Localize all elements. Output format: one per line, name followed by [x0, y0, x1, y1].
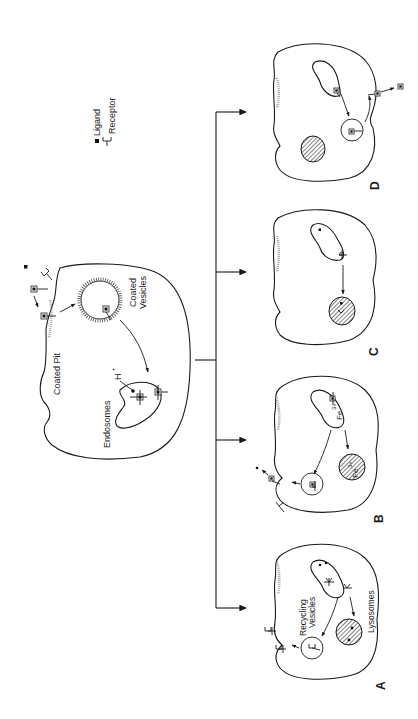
- panel-a-lysosomes-label: Lysosomes: [366, 590, 376, 633]
- receptor-icon: [103, 137, 111, 146]
- coated-pit-coat: [49, 300, 52, 338]
- main-cell-membrane: [40, 264, 190, 459]
- svg-text:Vesicles: Vesicles: [138, 275, 148, 309]
- receptor-mediated-endocytosis-diagram: Ligand Receptor: [0, 0, 418, 719]
- main-cell: Coated Vesicles Coated Pit H + Endosomes: [24, 264, 190, 459]
- branch-connector: [195, 112, 246, 608]
- panel-b-label: B: [372, 514, 386, 523]
- legend-receptor-label: Receptor: [107, 97, 117, 134]
- coated-pit-label: Coated Pit: [52, 352, 62, 395]
- panel-b-endosome-fe: Fe: [335, 410, 344, 420]
- panel-d: D: [273, 44, 403, 190]
- panel-c-lysosome: [329, 297, 355, 325]
- svg-text:3+: 3+: [331, 403, 337, 410]
- panel-d-label: D: [368, 181, 382, 190]
- panel-d-membrane: [273, 44, 376, 181]
- ligand-free: [24, 265, 28, 269]
- panel-b-endosome: [311, 390, 344, 428]
- panel-c-label: C: [367, 347, 381, 356]
- legend-ligand-label: Ligand: [92, 109, 102, 136]
- receptor-bound-1: [31, 286, 48, 292]
- panel-d-lysosome: [301, 136, 325, 162]
- panel-a: Recycling Vesicles Lysosomes A: [265, 544, 388, 690]
- panel-a-membrane: [274, 544, 378, 679]
- panel-b-empty-receptor: [276, 502, 284, 512]
- coated-vesicles-label: Coated: [128, 278, 138, 307]
- panel-b: Fe 3+ Fe 3+ B: [256, 376, 386, 523]
- coated-vesicle: [81, 281, 119, 319]
- endosome: [116, 382, 162, 428]
- proton-label: H: [113, 374, 123, 381]
- legend: Ligand Receptor: [92, 97, 117, 146]
- panel-c: C: [273, 210, 381, 356]
- panel-b-lysosome-fe: Fe: [351, 468, 360, 478]
- endosomes-label: Endosomes: [102, 400, 112, 448]
- panel-a-label: A: [374, 681, 388, 690]
- receptor-empty: [41, 268, 52, 280]
- svg-text:+: +: [110, 367, 116, 371]
- svg-text:Vesicles: Vesicles: [307, 597, 317, 628]
- panel-c-membrane: [273, 210, 376, 345]
- svg-text:3+: 3+: [347, 461, 353, 468]
- ligand-icon: [95, 139, 99, 143]
- panel-a-endosome: [311, 560, 344, 598]
